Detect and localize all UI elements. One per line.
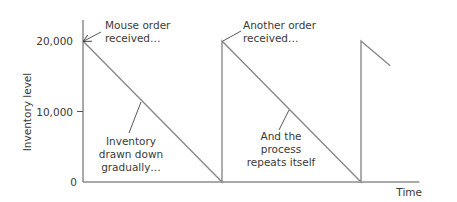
y-tick-label: 10,000 [36, 106, 73, 118]
annotations: Mouse orderreceived…Another orderreceive… [84, 19, 317, 173]
annotation-text: And the [260, 130, 301, 142]
annotation-another-order: Another orderreceived… [223, 19, 317, 44]
annotation-text: Another order [243, 19, 317, 31]
annotation-leader-line [129, 102, 141, 133]
annotation-leader-line [223, 31, 241, 41]
annotation-mouse-order: Mouse orderreceived… [84, 19, 171, 44]
y-ticks: 010,00020,000 [36, 35, 83, 188]
y-tick-label: 20,000 [36, 35, 73, 47]
annotation-repeats: And theprocessrepeats itself [247, 110, 316, 168]
annotation-text: drawn down [99, 148, 163, 160]
x-axis-label: Time [395, 186, 422, 198]
annotation-text: repeats itself [247, 156, 316, 168]
annotation-text: received… [105, 32, 161, 44]
annotation-text: received… [243, 32, 299, 44]
annotation-text: Mouse order [105, 19, 171, 31]
annotation-arrow [84, 32, 101, 41]
annotation-leader-line [279, 110, 289, 130]
annotation-text: process [261, 143, 301, 155]
inventory-chart: 010,00020,000 Mouse orderreceived…Anothe… [0, 0, 457, 202]
y-axis-label: Inventory level [21, 73, 33, 151]
annotation-text: Inventory [106, 135, 156, 147]
y-tick-label: 0 [70, 176, 77, 188]
annotation-text: gradually… [101, 161, 161, 173]
